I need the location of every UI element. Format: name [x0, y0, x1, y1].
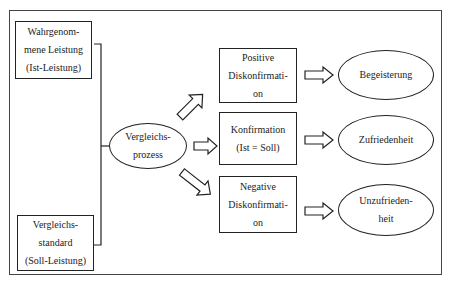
outcome-box-negative-disconfirmation: Negative Diskonfirmati- on: [219, 176, 297, 233]
box-text: (Ist-Leistung): [26, 59, 81, 77]
box-text: Diskonfirmati-: [228, 67, 287, 85]
ellipse-text: Begeisterung: [360, 66, 413, 84]
arrow-right-icon: [305, 132, 333, 148]
result-ellipse-dissatisfaction: Unzufrieden- heit: [338, 184, 434, 236]
box-text: mene Leistung: [24, 41, 83, 59]
outcome-box-confirmation: Konfirmation (Ist = Soll): [219, 112, 297, 165]
box-text: on: [253, 85, 263, 103]
input-box-comparison-standard: Vergleichs- standard (Soll-Leistung): [17, 215, 94, 271]
arrow-up-right-icon: [174, 88, 209, 123]
process-ellipse: Vergleichs- prozess: [109, 123, 187, 169]
bracket-connector: [94, 44, 101, 245]
result-ellipse-enthusiasm: Begeisterung: [338, 50, 434, 100]
box-text: on: [253, 214, 263, 232]
box-text: Diskonfirmati-: [228, 196, 287, 214]
arrow-right-icon: [305, 203, 333, 219]
box-text: standard: [39, 234, 73, 252]
ellipse-text: Unzufrieden-: [359, 192, 412, 210]
ellipse-text: prozess: [133, 146, 163, 164]
outcome-box-positive-disconfirmation: Positive Diskonfirmati- on: [219, 48, 297, 103]
ellipse-text: Vergleichs-: [125, 128, 170, 146]
arrow-right-icon: [305, 67, 333, 83]
box-text: Negative: [240, 178, 276, 196]
result-ellipse-satisfaction: Zufriedenheit: [338, 115, 434, 165]
box-text: Wahrgenom-: [28, 23, 80, 41]
input-box-perceived-performance: Wahrgenom- mene Leistung (Ist-Leistung): [15, 21, 92, 79]
arrow-down-right-icon: [176, 165, 215, 201]
ellipse-text: heit: [379, 210, 394, 228]
box-text: (Ist = Soll): [236, 139, 279, 157]
arrow-right-icon: [194, 138, 217, 154]
box-text: Positive: [242, 49, 274, 67]
box-text: Konfirmation: [231, 121, 285, 139]
ellipse-text: Zufriedenheit: [359, 131, 413, 149]
box-text: Vergleichs-: [33, 216, 78, 234]
box-text: (Soll-Leistung): [25, 252, 86, 270]
